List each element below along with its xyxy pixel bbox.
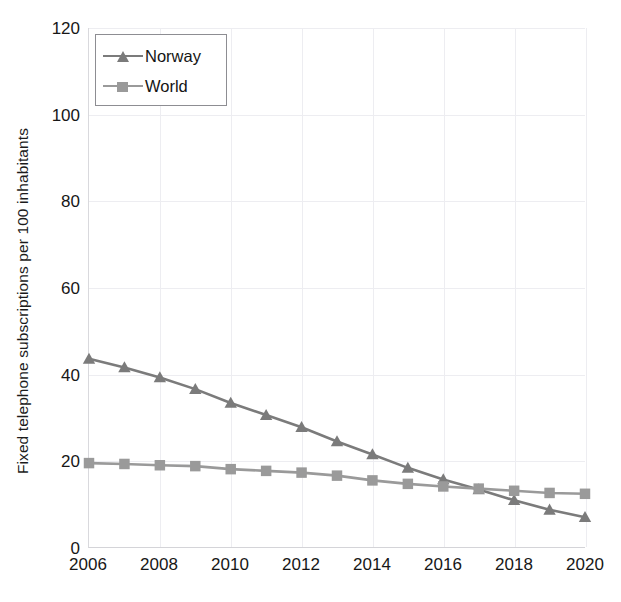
legend-label-norway: Norway: [143, 47, 201, 66]
x-axis-tick-label: 2014: [353, 556, 391, 573]
data-point-square: [509, 486, 519, 496]
legend-label-world: World: [143, 77, 188, 96]
legend-entry-world: World: [96, 71, 226, 101]
data-point-square: [225, 464, 235, 474]
x-axis-tick-label: 2020: [566, 556, 604, 573]
data-point-triangle: [83, 353, 95, 364]
gridline-vertical: [586, 28, 587, 547]
y-axis-tick-label: 0: [34, 540, 80, 557]
x-axis-tick-label: 2016: [424, 556, 462, 573]
x-axis-tick-label: 2012: [282, 556, 320, 573]
y-axis-tick-label: 80: [34, 193, 80, 210]
x-axis-tick-label: 2018: [495, 556, 533, 573]
x-axis-tick-label: 2010: [211, 556, 249, 573]
y-axis-tick-label: 120: [34, 20, 80, 37]
data-point-square: [438, 481, 448, 491]
y-axis-tick-label: 40: [34, 366, 80, 383]
chart-legend: Norway World: [95, 34, 227, 106]
x-axis-tick-label: 2008: [140, 556, 178, 573]
data-point-square: [367, 475, 377, 485]
legend-entry-norway: Norway: [96, 41, 226, 71]
data-point-square: [155, 460, 165, 470]
data-point-square: [580, 489, 590, 499]
plot-area: [88, 28, 585, 548]
data-point-square: [190, 461, 200, 471]
y-axis-tick-label: 20: [34, 453, 80, 470]
series-norway: [83, 353, 591, 522]
series-world: [84, 458, 590, 499]
y-axis-title-text: Fixed telephone subscriptions per 100 in…: [14, 128, 32, 474]
data-point-square: [403, 479, 413, 489]
x-axis-tick-label: 2006: [69, 556, 107, 573]
square-marker-icon: [103, 79, 143, 93]
y-axis-tick-labels: 020406080100120: [32, 0, 80, 602]
data-point-square: [261, 466, 271, 476]
x-axis-tick-labels: 20062008201020122014201620182020: [0, 556, 621, 586]
y-axis-tick-label: 100: [34, 106, 80, 123]
legend-triangle-norway: [117, 51, 129, 62]
data-point-square: [84, 458, 94, 468]
legend-square-world: [117, 82, 128, 92]
data-point-square: [296, 467, 306, 477]
triangle-marker-icon: [103, 49, 143, 63]
chart-figure: Fixed telephone subscriptions per 100 in…: [0, 0, 621, 602]
y-axis-tick-label: 60: [34, 280, 80, 297]
data-point-square: [544, 488, 554, 498]
data-point-square: [119, 459, 129, 469]
data-point-square: [473, 483, 483, 493]
data-point-square: [332, 470, 342, 480]
